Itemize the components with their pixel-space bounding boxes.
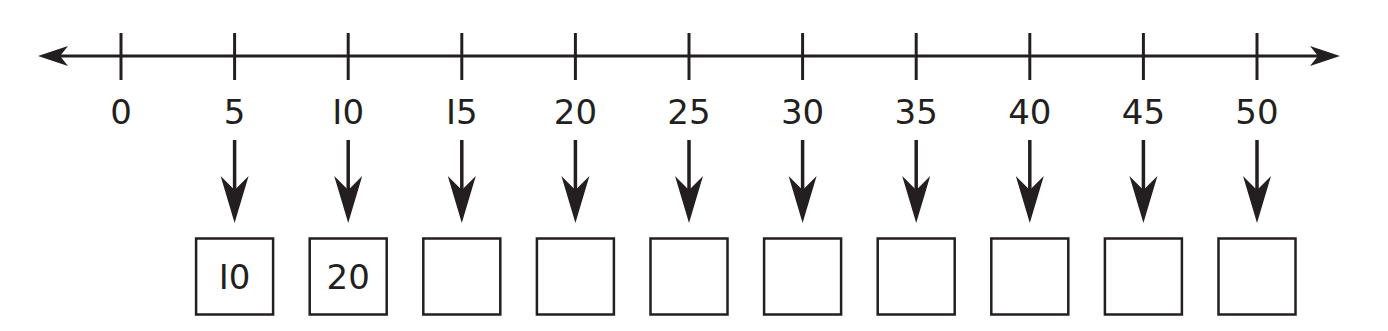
tick-label: 25 <box>667 92 710 132</box>
tick-label: 50 <box>1235 92 1278 132</box>
tick-label: 30 <box>781 92 824 132</box>
answer-box[interactable] <box>651 239 728 315</box>
tick-labels: 05I0I520253035404550 <box>110 92 1278 132</box>
answer-box[interactable] <box>991 239 1068 315</box>
tick-label: I0 <box>332 92 364 132</box>
down-arrow-icon <box>334 140 362 223</box>
answer-box[interactable] <box>878 239 955 315</box>
down-arrow-icon <box>1016 140 1044 223</box>
tick-label: 45 <box>1122 92 1165 132</box>
down-arrow-icon <box>675 140 703 223</box>
number-line-diagram: 05I0I520253035404550 I020 <box>0 0 1388 331</box>
down-arrow-icon <box>561 140 589 223</box>
answer-box-value: I0 <box>219 257 251 297</box>
answer-box[interactable] <box>537 239 614 315</box>
tick-label: 40 <box>1008 92 1051 132</box>
answer-box[interactable] <box>423 239 500 315</box>
down-arrow-icon <box>448 140 476 223</box>
down-arrow-icon <box>1129 140 1157 223</box>
down-arrows <box>221 140 1271 223</box>
tick-label: 0 <box>110 92 132 132</box>
tick-label: I5 <box>446 92 478 132</box>
answer-box[interactable] <box>1219 239 1296 315</box>
answer-box[interactable]: 20 <box>310 239 387 315</box>
down-arrow-icon <box>789 140 817 223</box>
down-arrow-icon <box>902 140 930 223</box>
answer-box-value: 20 <box>327 257 370 297</box>
tick-label: 35 <box>895 92 938 132</box>
down-arrow-icon <box>1243 140 1271 223</box>
down-arrow-icon <box>221 140 249 223</box>
answer-box[interactable] <box>1105 239 1182 315</box>
tick-label: 5 <box>224 92 246 132</box>
answer-box[interactable]: I0 <box>196 239 273 315</box>
answer-box[interactable] <box>764 239 841 315</box>
tick-label: 20 <box>554 92 597 132</box>
answer-boxes: I020 <box>196 239 1295 315</box>
